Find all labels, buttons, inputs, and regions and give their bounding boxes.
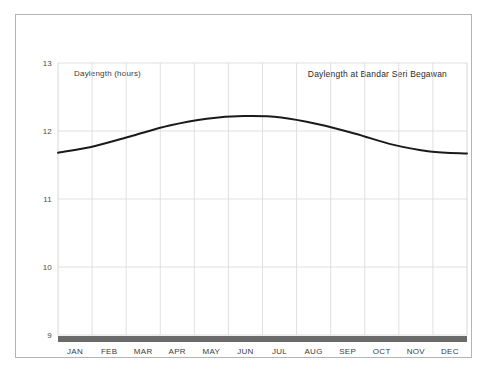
x-tick-label: FEB (92, 345, 126, 361)
y-tick-label: 13 (43, 59, 52, 68)
x-tick-label: MAY (194, 345, 228, 361)
x-tick-label: SEP (331, 345, 365, 361)
x-tick-label: APR (160, 345, 194, 361)
month-axis-bar (58, 336, 467, 342)
x-axis-tick-labels: JANFEBMARAPRMAYJUNJULAUGSEPOCTNOVDEC (58, 345, 467, 361)
y-axis-tick-labels: 131211109 (58, 63, 467, 335)
x-tick-label: OCT (365, 345, 399, 361)
y-tick-label: 12 (43, 127, 52, 136)
x-tick-label: MAR (126, 345, 160, 361)
y-tick-label: 9 (47, 331, 52, 340)
y-tick-label: 10 (43, 263, 52, 272)
x-tick-label: DEC (433, 345, 467, 361)
x-tick-label: JUL (262, 345, 296, 361)
chart-figure: Daylength (hours) Daylength at Bandar Se… (15, 14, 472, 358)
y-tick-label: 11 (43, 195, 52, 204)
x-tick-label: NOV (399, 345, 433, 361)
x-tick-label: JUN (228, 345, 262, 361)
plot-area: 131211109 (58, 63, 467, 335)
x-tick-label: AUG (297, 345, 331, 361)
x-tick-label: JAN (58, 345, 92, 361)
